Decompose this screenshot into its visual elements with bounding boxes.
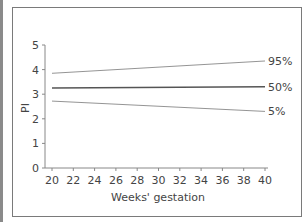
y-tick-label: 1 <box>32 137 39 150</box>
x-tick-label: 24 <box>88 174 102 187</box>
series-line-5pct <box>52 101 265 111</box>
series-label: 95% <box>268 55 292 68</box>
series-line-50pct <box>52 87 265 88</box>
line-chart: 0123452022242628303234363840 95%50%5% We… <box>0 0 305 222</box>
x-axis-label: Weeks' gestation <box>111 191 205 204</box>
percentile-lines: 95%50%5% <box>52 55 292 118</box>
x-tick-label: 22 <box>66 174 80 187</box>
y-tick-label: 2 <box>32 113 39 126</box>
x-tick-label: 20 <box>45 174 59 187</box>
series-label: 5% <box>268 105 285 118</box>
y-axis-label: PI <box>19 103 32 113</box>
x-tick-label: 28 <box>130 174 144 187</box>
series-line-95pct <box>52 61 265 73</box>
x-tick-label: 38 <box>237 174 251 187</box>
x-tick-label: 26 <box>109 174 123 187</box>
x-tick-label: 32 <box>173 174 187 187</box>
x-tick-label: 30 <box>152 174 166 187</box>
y-tick-label: 3 <box>32 88 39 101</box>
y-tick-label: 4 <box>32 64 39 77</box>
x-tick-label: 40 <box>258 174 272 187</box>
series-label: 50% <box>268 81 292 94</box>
x-tick-label: 34 <box>194 174 208 187</box>
x-tick-label: 36 <box>215 174 229 187</box>
y-tick-label: 5 <box>32 39 39 52</box>
y-tick-label: 0 <box>32 162 39 175</box>
axes: 0123452022242628303234363840 <box>32 39 272 187</box>
